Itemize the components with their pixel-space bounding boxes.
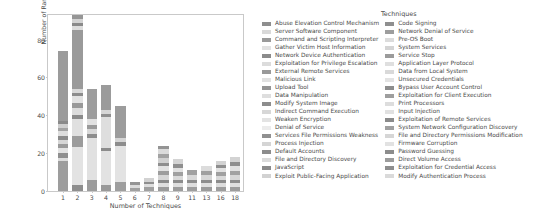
legend-item[interactable]: Password Guessing [385,148,522,156]
x-tick-label: 5 [118,194,122,201]
legend-item[interactable]: Print Processors [385,100,522,108]
legend-item[interactable]: System Network Configuration Discovery [385,124,522,132]
legend-swatch [262,102,271,106]
legend-swatch [385,110,394,114]
y-tick-label: 60 [37,74,45,81]
legend-item[interactable]: Exploitation for Privilege Escalation [262,60,379,68]
legend-label: Network Denial of Service [398,29,473,35]
legend-label: Services File Permissions Weakness [275,133,378,139]
legend-swatch [385,70,394,74]
legend-label: Weaken Encryption [275,117,331,123]
plot-area: Number of Ransomware 020406080 123456789… [47,14,244,192]
legend-item[interactable]: Modify System Image [262,100,379,108]
legend-swatch [262,86,271,90]
legend-item[interactable]: Default Accounts [262,148,379,156]
x-tick-label: 7 [147,194,151,201]
legend-swatch [262,46,271,50]
legend-swatch [385,54,394,58]
legend-item[interactable]: Direct Volume Access [385,156,522,164]
legend-label: External Remote Services [275,69,350,75]
legend-item[interactable]: Pre-OS Boot [385,36,522,44]
legend-item[interactable]: Abuse Elevation Control Mechanism [262,20,379,28]
legend-label: Code Signing [398,21,436,27]
legend-item[interactable]: Malicious Link [262,76,379,84]
legend-item[interactable]: Services File Permissions Weakness [262,132,379,140]
bar-segment [72,147,82,185]
legend-swatch [262,78,271,82]
legend-item[interactable]: Exploit Public-Facing Application [262,172,379,180]
bar-segment [115,182,125,191]
bar-segment [58,161,68,191]
legend-item[interactable]: External Remote Services [262,68,379,76]
x-tick-label: 16 [217,194,225,201]
legend-item[interactable]: Unsecured Credentials [385,76,522,84]
legend-label: Process Injection [275,141,324,147]
legend-item[interactable]: Upload Tool [262,84,379,92]
legend-swatch [262,118,271,122]
legend-item[interactable]: Weaken Encryption [262,116,379,124]
y-tick-label: 20 [37,150,45,157]
legend-item[interactable]: Service Stop [385,52,522,60]
legend-label: Bypass User Account Control [398,85,482,91]
legend-item[interactable]: Network Device Authentication [262,52,379,60]
legend-item[interactable]: Firmware Corruption [385,140,522,148]
bar-13 [201,166,211,191]
legend-item[interactable]: Exploitation for Client Execution [385,92,522,100]
legend-item[interactable]: JavaScript [262,164,379,172]
legend-item[interactable]: Data from Local System [385,68,522,76]
legend-swatch [385,118,394,122]
legend-item[interactable]: Process Injection [262,140,379,148]
x-tick-mark [106,191,107,193]
y-tick-label: 40 [37,112,45,119]
legend-label: Exploitation for Credential Access [398,165,496,171]
x-tick-mark [63,191,64,193]
x-tick-label: 2 [75,194,79,201]
legend-item[interactable]: Data Manipulation [262,92,379,100]
legend-item[interactable]: Bypass User Account Control [385,84,522,92]
bar-8 [158,146,168,191]
legend: Techniques Abuse Elevation Control Mecha… [262,10,556,180]
legend-swatch [262,142,271,146]
bar-segment [115,146,125,182]
legend-item[interactable]: Application Layer Protocol [385,60,522,68]
bar-4 [101,85,111,191]
legend-swatch [385,166,394,170]
legend-label: Network Device Authentication [275,53,365,59]
legend-item[interactable]: Exploitation for Credential Access [385,164,522,172]
bar-segment [58,51,68,121]
x-tick-mark [235,191,236,193]
legend-item[interactable]: Indirect Command Execution [262,108,379,116]
y-tick-label: 80 [37,36,45,43]
legend-item[interactable]: File and Directory Permissions Modificat… [385,132,522,140]
legend-item[interactable]: Command and Scripting Interpreter [262,36,379,44]
legend-column-2: Code SigningNetwork Denial of ServicePre… [385,20,522,181]
legend-swatch [385,78,394,82]
bar-2 [72,15,82,191]
legend-item[interactable]: Server Software Component [262,28,379,36]
legend-label: Upload Tool [275,85,308,91]
legend-swatch [385,174,394,178]
legend-label: Service Stop [398,53,434,59]
legend-item[interactable]: System Services [385,44,522,52]
bar-3 [87,89,97,191]
legend-item[interactable]: Modify Authentication Process [385,172,522,180]
legend-item[interactable]: Gather Victim Host Information [262,44,379,52]
legend-swatch [262,70,271,74]
legend-item[interactable]: Network Denial of Service [385,28,522,36]
x-tick-label: 9 [176,194,180,201]
legend-swatch [385,150,394,154]
legend-label: Application Layer Protocol [398,61,474,67]
legend-item[interactable]: Input Injection [385,108,522,116]
legend-item[interactable]: Denial of Service [262,124,379,132]
legend-swatch [385,142,394,146]
legend-item[interactable]: Code Signing [385,20,522,28]
legend-swatch [262,38,271,42]
bar-5 [115,106,125,191]
legend-item[interactable]: File and Directory Discovery [262,156,379,164]
legend-label: Denial of Service [275,125,324,131]
bar-9 [173,159,183,191]
legend-swatch [262,174,271,178]
legend-swatch [385,38,394,42]
legend-item[interactable]: Exploitation of Remote Services [385,116,522,124]
bar-segment [72,136,82,147]
